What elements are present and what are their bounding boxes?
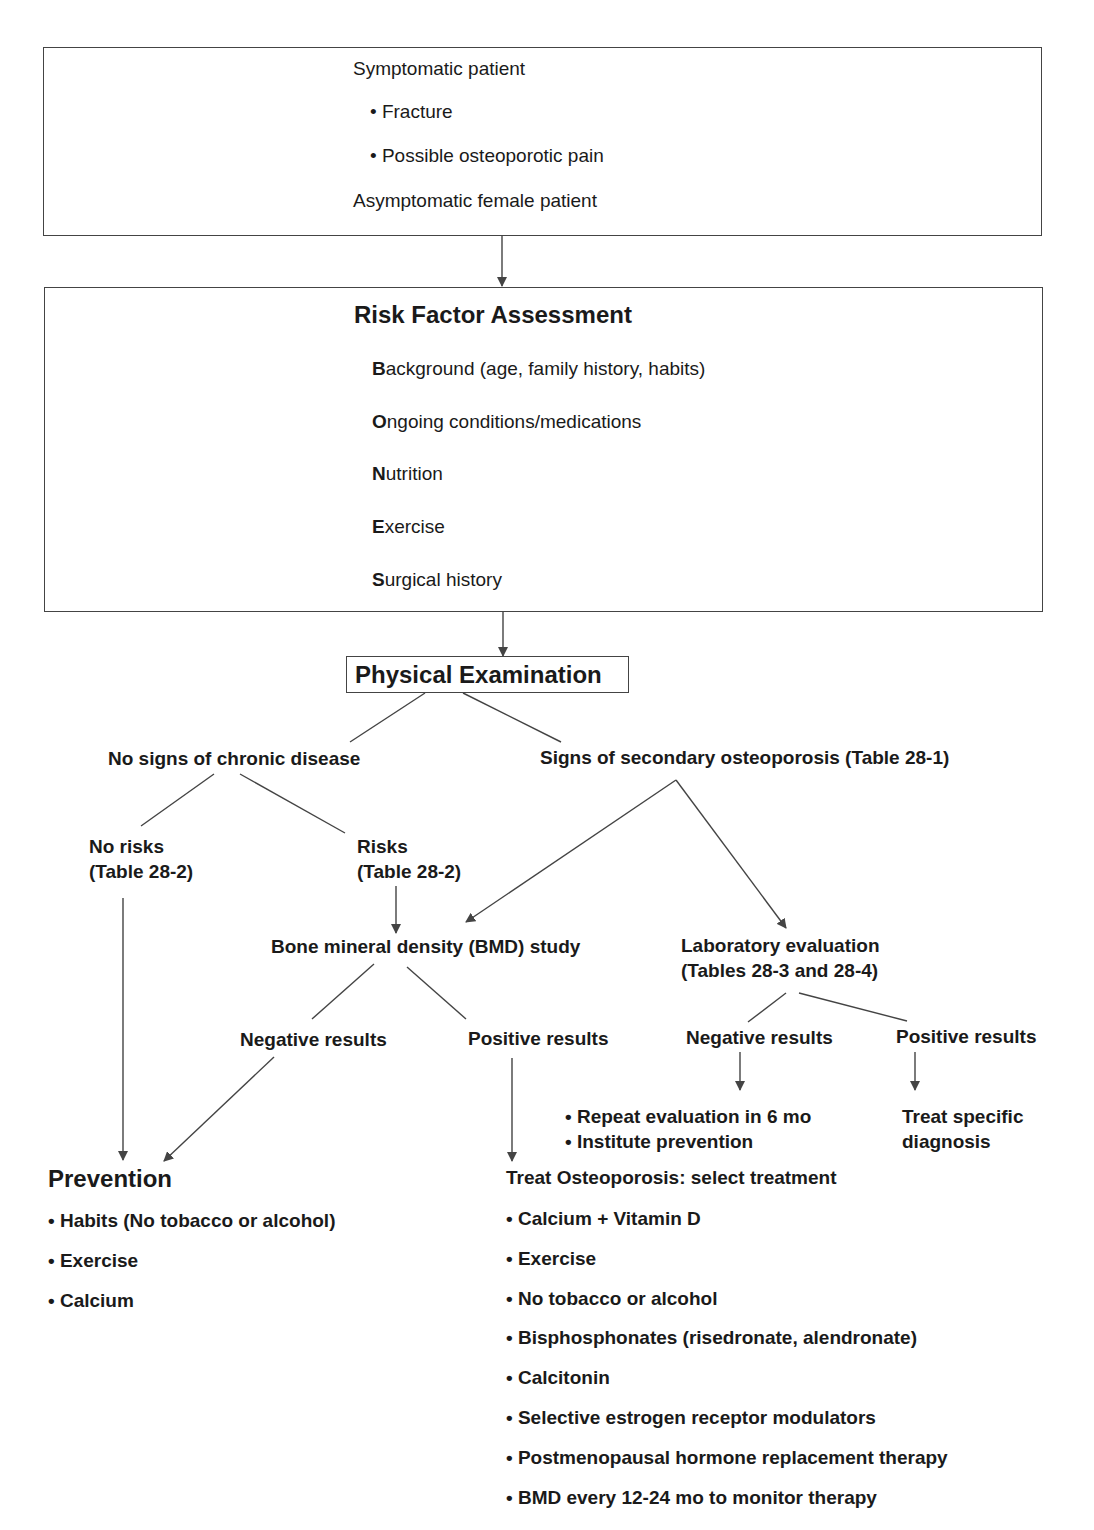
bullet-icon: • xyxy=(48,1210,55,1231)
lab-negative-node: Negative results xyxy=(686,1025,833,1050)
arrow-secondary-to-bmd xyxy=(466,780,676,922)
no-risks-node: No risks (Table 28-2) xyxy=(89,834,193,884)
treatment-item: • Postmenopausal hormone replacement the… xyxy=(506,1447,948,1469)
secondary-osteoporosis-node: Signs of secondary osteoporosis (Table 2… xyxy=(540,745,949,770)
bullet-icon: • xyxy=(48,1250,55,1271)
symptomatic-label: Symptomatic patient xyxy=(353,58,525,80)
bullet-icon: • xyxy=(565,1106,572,1127)
risk-item-nutrition: Nutrition xyxy=(372,463,443,485)
bullet-icon: • xyxy=(370,101,377,122)
bullet-icon: • xyxy=(506,1288,513,1309)
bullet-icon: • xyxy=(506,1208,513,1229)
bmd-positive-node: Positive results xyxy=(468,1026,608,1051)
prevention-title: Prevention xyxy=(48,1165,172,1193)
line-exam-to-no-chronic xyxy=(350,693,425,742)
lab-evaluation-node: Laboratory evaluation (Tables 28-3 and 2… xyxy=(681,933,880,983)
treat-specific-diagnosis: Treat specific diagnosis xyxy=(902,1104,1023,1154)
bullet-icon: • xyxy=(506,1367,513,1388)
bullet-icon: • xyxy=(506,1407,513,1428)
bullet-icon: • xyxy=(506,1447,513,1468)
line-exam-to-secondary xyxy=(463,693,561,742)
prevention-item: • Calcium xyxy=(48,1290,134,1312)
action-item: • Repeat evaluation in 6 mo xyxy=(565,1104,811,1129)
line-no-chronic-to-risks xyxy=(240,774,345,833)
treatment-item: • Calcium + Vitamin D xyxy=(506,1208,701,1230)
symptom-item: • Possible osteoporotic pain xyxy=(370,145,604,167)
treatment-item: • Bisphosphonates (risedronate, alendron… xyxy=(506,1327,917,1349)
risk-item-exercise: Exercise xyxy=(372,516,445,538)
line-lab-to-negative xyxy=(748,993,786,1022)
bullet-icon: • xyxy=(565,1131,572,1152)
asymptomatic-label: Asymptomatic female patient xyxy=(353,190,597,212)
treatment-item: • Exercise xyxy=(506,1248,596,1270)
lab-negative-actions: • Repeat evaluation in 6 mo • Institute … xyxy=(565,1104,811,1154)
bullet-icon: • xyxy=(370,145,377,166)
no-chronic-disease-node: No signs of chronic disease xyxy=(108,746,360,771)
line-lab-to-positive xyxy=(799,993,907,1021)
risk-assessment-box xyxy=(44,287,1043,612)
bmd-negative-node: Negative results xyxy=(240,1027,387,1052)
treatment-item: • BMD every 12-24 mo to monitor therapy xyxy=(506,1487,877,1509)
prevention-item: • Exercise xyxy=(48,1250,138,1272)
risk-item-ongoing: Ongoing conditions/medications xyxy=(372,411,641,433)
prevention-item: • Habits (No tobacco or alcohol) xyxy=(48,1210,335,1232)
bullet-icon: • xyxy=(506,1248,513,1269)
arrow-bmd-negative-to-prevention xyxy=(164,1057,274,1161)
physical-exam-title: Physical Examination xyxy=(355,661,602,689)
treatment-item: • No tobacco or alcohol xyxy=(506,1288,717,1310)
bmd-study-node: Bone mineral density (BMD) study xyxy=(271,934,580,959)
action-item: • Institute prevention xyxy=(565,1129,811,1154)
risk-item-background: Background (age, family history, habits) xyxy=(372,358,705,380)
risk-assessment-title: Risk Factor Assessment xyxy=(354,301,632,329)
treatment-item: • Selective estrogen receptor modulators xyxy=(506,1407,876,1429)
line-no-chronic-to-no-risks xyxy=(141,774,214,826)
lab-positive-node: Positive results xyxy=(896,1024,1036,1049)
line-bmd-to-positive xyxy=(407,967,466,1019)
symptom-item: • Fracture xyxy=(370,101,453,123)
bullet-icon: • xyxy=(48,1290,55,1311)
line-bmd-to-negative xyxy=(312,964,374,1019)
risk-item-surgical: Surgical history xyxy=(372,569,502,591)
treatment-title: Treat Osteoporosis: select treatment xyxy=(506,1167,837,1189)
risks-node: Risks (Table 28-2) xyxy=(357,834,461,884)
treatment-item: • Calcitonin xyxy=(506,1367,610,1389)
arrow-secondary-to-lab xyxy=(676,780,786,928)
bullet-icon: • xyxy=(506,1487,513,1508)
bullet-icon: • xyxy=(506,1327,513,1348)
